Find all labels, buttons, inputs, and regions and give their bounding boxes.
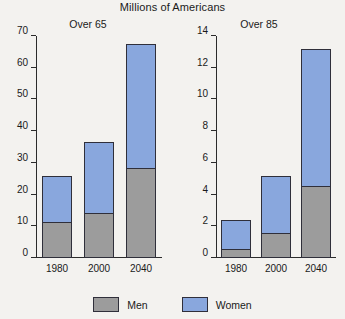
bar-segment-men	[222, 250, 250, 257]
y-tick-label: 30	[17, 153, 28, 163]
bar-segment-men	[262, 234, 290, 257]
y-tick-label: 8	[202, 121, 208, 131]
y-tick-label: 70	[17, 26, 28, 36]
y-tick-label: 4	[202, 185, 208, 195]
y-tick-label: 10	[17, 216, 28, 226]
x-axis-label: 1980	[225, 263, 247, 274]
bar-segment-women	[222, 221, 250, 250]
legend-swatch-women-icon	[182, 297, 208, 312]
y-tick-label: 14	[197, 26, 208, 36]
legend-label-women: Women	[216, 299, 252, 311]
legend-item-women: Women	[182, 297, 252, 312]
bar-segment-women	[302, 50, 330, 187]
bar-segment-women	[127, 45, 155, 170]
y-tick-label: 20	[17, 185, 28, 195]
bars-over-85: 198020002040	[216, 36, 336, 258]
bar-column: 1980	[221, 36, 251, 258]
y-tick-label: 60	[17, 58, 28, 68]
stacked-bar	[261, 176, 291, 258]
bar-column: 2000	[84, 36, 114, 258]
bar-column: 1980	[42, 36, 72, 258]
legend-item-men: Men	[93, 297, 147, 312]
plot-area-over-85: 02468101214 198020002040	[216, 36, 336, 258]
x-axis-label: 2040	[305, 263, 327, 274]
stacked-bar	[42, 176, 72, 258]
bar-segment-men	[302, 187, 330, 257]
y-tick-label: 0	[22, 248, 28, 258]
legend-label-men: Men	[127, 299, 147, 311]
y-tick-label: 50	[17, 89, 28, 99]
bar-column: 2000	[261, 36, 291, 258]
y-tick-label: 6	[202, 153, 208, 163]
bar-segment-women	[262, 177, 290, 235]
stacked-bar	[301, 49, 331, 258]
chart-title: Millions of Americans	[0, 1, 345, 13]
y-tick-label: 2	[202, 216, 208, 226]
chart-legend: Men Women	[0, 297, 345, 312]
x-axis-label: 1980	[46, 263, 68, 274]
y-tick-label: 12	[197, 58, 208, 68]
stacked-bar	[221, 220, 251, 258]
bars-over-65: 198020002040	[36, 36, 162, 258]
panel-title-over-65: Over 65	[4, 18, 172, 30]
y-tick-label: 10	[197, 89, 208, 99]
bar-segment-men	[43, 223, 71, 257]
plot-area-over-65: 010203040506070 198020002040	[36, 36, 162, 258]
y-tick-label: 40	[17, 121, 28, 131]
legend-swatch-men-icon	[93, 297, 119, 312]
chart-figure: Millions of Americans Over 65 0102030405…	[0, 0, 345, 319]
x-axis-label: 2040	[130, 263, 152, 274]
bar-segment-women	[43, 177, 71, 224]
stacked-bar	[84, 142, 114, 258]
bar-segment-men	[85, 214, 113, 257]
bar-column: 2040	[126, 36, 156, 258]
bar-segment-women	[85, 143, 113, 214]
y-tick-label: 0	[202, 248, 208, 258]
x-axis-label: 2000	[88, 263, 110, 274]
x-axis-label: 2000	[265, 263, 287, 274]
bar-column: 2040	[301, 36, 331, 258]
bar-segment-men	[127, 169, 155, 257]
stacked-bar	[126, 44, 156, 258]
